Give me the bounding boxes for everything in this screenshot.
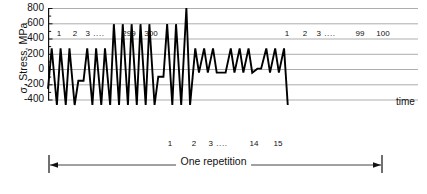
repetition-label-wrap: One repetition [0,155,427,167]
stress-spectrum-chart: σ, Stress, MPa 800 600 400 200 0 -200 -4… [0,0,427,194]
waveform-svg [48,8,418,105]
y-tick-400: 400 [14,33,44,43]
cycle-label-b15: 15 [274,140,283,148]
cycle-label-d99: 99 [356,30,365,38]
x-axis-label: time [396,96,415,107]
plot-area: 1 2 3 .... 299 300 1 2 3 .... 99 100 1 2… [48,8,418,105]
cycle-label-a299: 299 [122,30,135,38]
cycle-label-b14: 14 [250,140,259,148]
stress-waveform [48,8,288,105]
y-tick-800: 800 [14,3,44,13]
cycle-label-d100: 100 [376,30,389,38]
y-tick-200: 200 [14,49,44,59]
gridlines [48,9,418,101]
cycle-label-d3: 3 .... [316,30,335,38]
cycle-label-a300: 300 [144,30,157,38]
y-tick-600: 600 [14,18,44,28]
cycle-label-a2: 2 [73,30,77,38]
y-tick-0: 0 [14,64,44,74]
cycle-label-d1: 1 [285,30,289,38]
cycle-label-b1: 1 [168,140,172,148]
cycle-label-b2: 2 [192,140,196,148]
y-tick-n400: -400 [14,94,44,104]
cycle-label-a1: 1 [57,30,61,38]
cycle-label-d2: 2 [303,30,307,38]
cycle-label-b3: 3 .... [208,140,227,148]
repetition-label: One repetition [176,155,252,167]
cycle-label-a3: 3 .... [85,30,104,38]
y-tick-n200: -200 [14,79,44,89]
